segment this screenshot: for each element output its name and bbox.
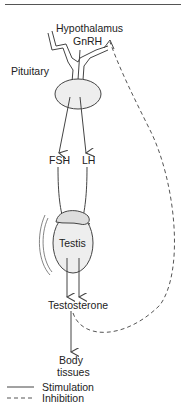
label-gnrh: GnRH xyxy=(73,35,102,47)
label-testosterone: Testosterone xyxy=(48,299,108,311)
label-body: Body xyxy=(59,354,83,366)
label-testis: Testis xyxy=(59,237,86,249)
label-hypothalamus: Hypothalamus xyxy=(56,22,123,34)
label-pituitary: Pituitary xyxy=(11,65,49,77)
legend-inhibition: Inhibition xyxy=(42,392,84,404)
label-fsh: FSH xyxy=(49,154,70,166)
hpg-axis-diagram xyxy=(0,0,183,407)
label-tissues: tissues xyxy=(57,366,90,378)
pituitary-gland-icon xyxy=(55,79,101,109)
label-lh: LH xyxy=(82,154,95,166)
